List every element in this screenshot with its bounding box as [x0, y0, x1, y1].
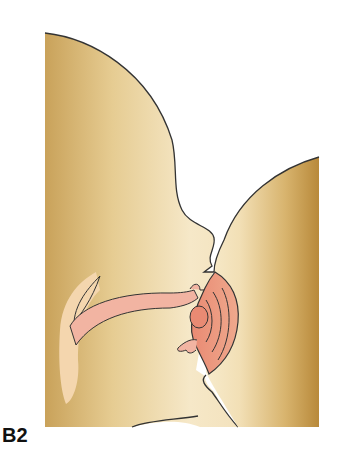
panel-label: B2 [2, 424, 28, 447]
nipple-tip [190, 306, 208, 328]
breastfeeding-latch-illustration [0, 0, 338, 454]
